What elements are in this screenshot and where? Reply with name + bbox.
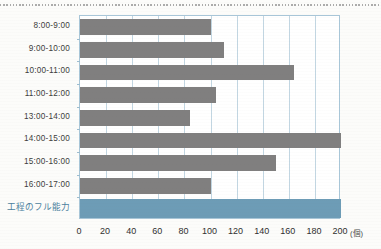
plot-area xyxy=(79,15,340,219)
x-axis-tick-label: 180 xyxy=(306,226,321,236)
y-axis-label-3: 10:00-11:00 xyxy=(0,60,75,83)
y-axis-tick xyxy=(77,39,80,40)
y-axis-label-6: 14:00-15:00 xyxy=(0,128,75,151)
y-axis-tick xyxy=(77,107,80,108)
y-axis-label-capacity: 工程のフル能力 xyxy=(0,196,75,219)
x-axis-tick-label: 40 xyxy=(126,226,136,236)
bar-row xyxy=(80,152,339,175)
y-axis-tick xyxy=(77,152,80,153)
y-axis-tick xyxy=(77,61,80,62)
bar-row xyxy=(80,107,339,130)
bar-group xyxy=(80,16,339,218)
y-axis-tick xyxy=(77,197,80,198)
horizontal-bar-chart: 8:00-9:009:00-10:0010:00-11:0011:00-12:0… xyxy=(0,0,381,249)
y-axis-label-5: 13:00-14:00 xyxy=(0,106,75,129)
bar xyxy=(80,65,294,81)
x-axis: (個) 020406080100120140160180200 xyxy=(0,221,381,241)
x-axis-tick-label: 60 xyxy=(152,226,162,236)
x-axis-tick-label: 160 xyxy=(280,226,295,236)
capacity-bar xyxy=(80,199,341,218)
y-axis-tick xyxy=(77,129,80,130)
bar xyxy=(80,19,211,35)
bar xyxy=(80,87,216,103)
y-axis-label-4: 11:00-12:00 xyxy=(0,83,75,106)
bar-row xyxy=(80,197,339,220)
y-axis-tick xyxy=(77,84,80,85)
x-axis-tick-label: 140 xyxy=(254,226,269,236)
bar-row xyxy=(80,84,339,107)
x-axis-tick-label: 100 xyxy=(202,226,217,236)
bar-row xyxy=(80,175,339,198)
bar-row xyxy=(80,16,339,39)
bar-row xyxy=(80,61,339,84)
bar xyxy=(80,178,211,194)
y-axis-label-8: 16:00-17:00 xyxy=(0,174,75,197)
bar xyxy=(80,110,190,126)
bar xyxy=(80,42,224,58)
y-axis-label-group: 8:00-9:009:00-10:0010:00-11:0011:00-12:0… xyxy=(0,15,75,219)
x-axis-tick-label: 200 xyxy=(332,226,347,236)
x-axis-tick-label: 120 xyxy=(228,226,243,236)
bar-row xyxy=(80,39,339,62)
y-axis-tick xyxy=(77,175,80,176)
y-axis-label-1: 8:00-9:00 xyxy=(0,15,75,38)
bar-row xyxy=(80,129,339,152)
x-axis-unit-label: (個) xyxy=(350,227,363,238)
x-axis-tick-label: 0 xyxy=(76,226,81,236)
bar xyxy=(80,155,276,171)
bar xyxy=(80,133,341,149)
y-axis-label-7: 15:00-16:00 xyxy=(0,151,75,174)
x-axis-tick-label: 80 xyxy=(178,226,188,236)
x-axis-tick-label: 20 xyxy=(100,226,110,236)
y-axis-label-2: 9:00-10:00 xyxy=(0,38,75,61)
